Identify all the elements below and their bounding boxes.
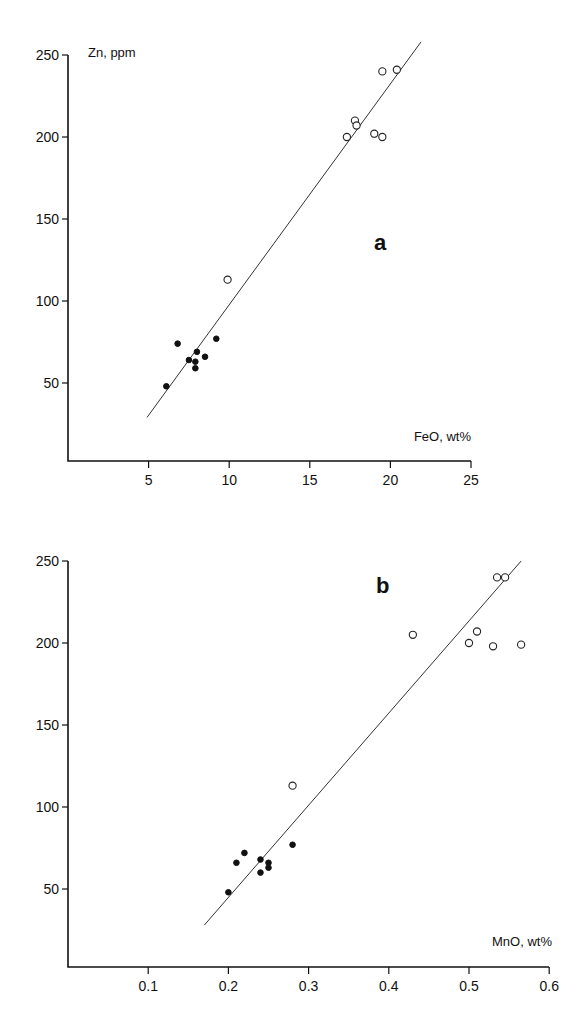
- y-tick-label: 100: [36, 293, 60, 309]
- chart-panel-b: 501001502002500.10.20.30.40.50.6MnO, wt%…: [36, 553, 560, 994]
- data-point-filled: [164, 383, 170, 389]
- x-tick-label: 10: [221, 472, 237, 488]
- x-tick-label: 20: [383, 472, 399, 488]
- data-point-filled: [194, 349, 200, 355]
- data-point-open: [353, 122, 360, 129]
- panel-label: b: [376, 573, 389, 598]
- data-point-open: [343, 133, 350, 140]
- y-tick-label: 50: [43, 881, 59, 897]
- y-tick-label: 200: [36, 129, 60, 145]
- data-point-open: [465, 639, 472, 646]
- data-point-filled: [202, 354, 208, 360]
- data-point-filled: [266, 865, 272, 871]
- data-point-filled: [186, 357, 192, 363]
- y-tick-label: 250: [36, 47, 60, 63]
- data-point-open: [379, 133, 386, 140]
- data-point-open: [473, 628, 480, 635]
- data-point-filled: [234, 860, 240, 866]
- y-tick-label: 150: [36, 211, 60, 227]
- data-point-open: [393, 66, 400, 73]
- y-tick-label: 250: [36, 553, 60, 569]
- x-tick-label: 0.4: [379, 978, 399, 994]
- data-point-filled: [258, 870, 264, 876]
- data-point-filled: [290, 842, 296, 848]
- data-point-filled: [226, 889, 232, 895]
- data-point-open: [224, 276, 231, 283]
- data-point-open: [489, 643, 496, 650]
- data-point-open: [501, 574, 508, 581]
- data-point-open: [371, 130, 378, 137]
- y-tick-label: 50: [43, 375, 59, 391]
- axes-frame: [68, 55, 471, 461]
- x-tick-label: 0.5: [459, 978, 479, 994]
- data-point-open: [289, 782, 296, 789]
- data-point-filled: [175, 341, 181, 347]
- y-axis-label: Zn, ppm: [88, 45, 136, 60]
- figure-canvas: 50100150200250510152025Zn, ppmFeO, wt%a …: [0, 0, 577, 1015]
- x-tick-label: 25: [463, 472, 479, 488]
- axes-frame: [68, 561, 549, 967]
- x-tick-label: 0.3: [299, 978, 319, 994]
- regression-line: [204, 561, 521, 925]
- data-point-open: [379, 68, 386, 75]
- data-point-open: [518, 641, 525, 648]
- data-point-filled: [242, 850, 248, 856]
- x-axis-label: FeO, wt%: [414, 429, 472, 444]
- data-point-open: [409, 631, 416, 638]
- x-tick-label: 5: [145, 472, 153, 488]
- data-point-filled: [214, 336, 220, 342]
- data-point-filled: [193, 365, 199, 371]
- y-tick-label: 200: [36, 635, 60, 651]
- x-axis-label: MnO, wt%: [492, 934, 552, 949]
- data-point-filled: [193, 359, 199, 365]
- data-point-open: [493, 574, 500, 581]
- y-tick-label: 100: [36, 799, 60, 815]
- x-tick-label: 0.1: [138, 978, 158, 994]
- data-point-filled: [258, 857, 264, 863]
- panel-label: a: [374, 230, 387, 255]
- y-tick-label: 150: [36, 717, 60, 733]
- x-tick-label: 0.2: [219, 978, 239, 994]
- x-tick-label: 15: [302, 472, 318, 488]
- x-tick-label: 0.6: [539, 978, 559, 994]
- chart-panel-a: 50100150200250510152025Zn, ppmFeO, wt%a: [36, 42, 479, 488]
